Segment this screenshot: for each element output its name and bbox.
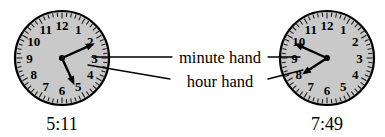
clock-numeral-12: 12 <box>321 18 334 33</box>
clock-numeral-12: 12 <box>56 18 69 33</box>
clock-numeral-11: 11 <box>40 22 52 37</box>
hour-hand-label: hour hand <box>187 72 254 91</box>
clock-numeral-4: 4 <box>87 67 94 82</box>
clock-diagram-canvas: 123456789101112123456789101112minute han… <box>0 0 385 137</box>
clock-diagram-figure: 123456789101112123456789101112minute han… <box>0 0 385 137</box>
clock-numeral-6: 6 <box>59 83 66 98</box>
clock-numeral-6: 6 <box>324 83 331 98</box>
clock-numeral-2: 2 <box>352 34 359 49</box>
clock-time-caption-right: 7:49 <box>311 114 343 134</box>
minute-hand-label: minute hand <box>179 48 262 67</box>
clock-numeral-7: 7 <box>43 79 50 94</box>
clock-numeral-8: 8 <box>31 67 38 82</box>
clock-numeral-9: 9 <box>291 51 298 66</box>
clock-center-pivot-left <box>59 55 65 61</box>
clock-numeral-3: 3 <box>356 51 363 66</box>
clock-numeral-1: 1 <box>75 22 82 37</box>
clock-numeral-10: 10 <box>27 34 40 49</box>
clock-left: 123456789101112 <box>15 11 109 105</box>
clock-numeral-11: 11 <box>305 22 317 37</box>
clock-right: 123456789101112 <box>280 11 374 105</box>
clock-numeral-3: 3 <box>91 51 98 66</box>
clock-numeral-5: 5 <box>75 79 82 94</box>
clock-numeral-7: 7 <box>308 79 315 94</box>
clock-time-caption-left: 5:11 <box>46 114 77 134</box>
clock-numeral-5: 5 <box>340 79 347 94</box>
clock-numeral-1: 1 <box>340 22 347 37</box>
clock-numeral-9: 9 <box>26 51 33 66</box>
clock-center-pivot-right <box>324 55 330 61</box>
clock-numeral-8: 8 <box>296 67 303 82</box>
clock-numeral-4: 4 <box>352 67 359 82</box>
